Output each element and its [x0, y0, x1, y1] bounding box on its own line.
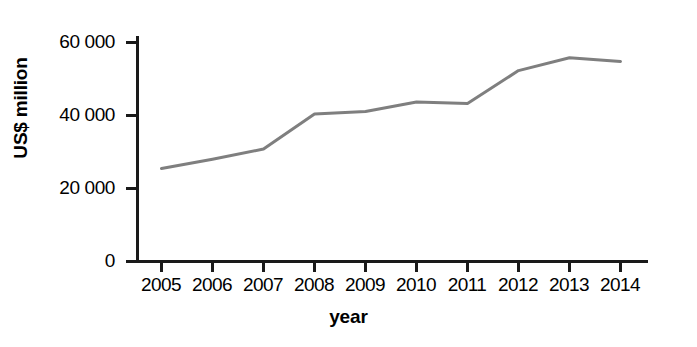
- line-chart: US$ million 60 000 40 000 20 000 0 2005 …: [0, 0, 697, 347]
- plot-area: [0, 0, 697, 347]
- axis-lines: [136, 36, 648, 262]
- data-series-line: [162, 58, 621, 169]
- y-axis-ticks: [126, 43, 137, 262]
